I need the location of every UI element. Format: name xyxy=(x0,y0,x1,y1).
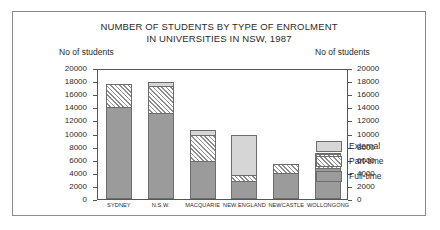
bar-segment-full-time xyxy=(106,107,132,199)
part-time-swatch xyxy=(316,156,342,167)
chart-title: NUMBER OF STUDENTS BY TYPE OF ENROLMENT … xyxy=(13,21,425,45)
bar-segment-full-time xyxy=(190,161,216,199)
y-tick-mark-right-14000 xyxy=(348,108,352,109)
y-tick-mark-right-2000 xyxy=(348,187,352,188)
bar-segment-external xyxy=(231,135,257,175)
bar-segment-external xyxy=(148,82,174,86)
bar-segment-part-time xyxy=(273,164,299,173)
legend-label-part-time: Part-time xyxy=(349,156,383,166)
chart-title-line-2: IN UNIVERSITIES IN NSW, 1987 xyxy=(13,33,425,45)
y-tick-label-left-0: 0 xyxy=(83,196,87,204)
legend-item-external: External xyxy=(316,139,383,153)
external-swatch xyxy=(316,141,342,152)
y-axis-label-left: No of students xyxy=(59,47,114,57)
bar-group-new-england: NEW ENGLAND xyxy=(231,68,257,199)
legend-label-external: External xyxy=(349,141,380,151)
bar-segment-full-time xyxy=(231,181,257,199)
stacked-bar xyxy=(190,68,216,199)
y-tick-label-right-20000: 20000 xyxy=(357,65,379,73)
y-tick-label-left-12000: 12000 xyxy=(65,117,87,125)
y-tick-label-left-20000: 20000 xyxy=(65,65,87,73)
bar-group-n-s-w: N.S.W. xyxy=(148,68,174,199)
bar-group-newcastle: NEWCASTLE xyxy=(273,68,299,199)
full-time-swatch xyxy=(316,171,342,182)
bar-segment-full-time xyxy=(273,173,299,199)
y-tick-label-left-16000: 16000 xyxy=(65,91,87,99)
stacked-bar xyxy=(273,68,299,199)
bar-segment-part-time xyxy=(231,175,257,180)
legend-item-part-time: Part-time xyxy=(316,154,383,168)
y-tick-label-right-14000: 14000 xyxy=(357,104,379,112)
bar-segment-part-time xyxy=(106,84,132,108)
y-tick-mark-right-18000 xyxy=(348,82,352,83)
y-axis-label-right: No of students xyxy=(315,47,370,57)
y-tick-label-left-18000: 18000 xyxy=(65,78,87,86)
y-tick-label-left-4000: 4000 xyxy=(69,170,87,178)
stacked-bar xyxy=(106,68,132,199)
y-tick-label-left-2000: 2000 xyxy=(69,183,87,191)
y-tick-label-left-6000: 6000 xyxy=(69,157,87,165)
chart-title-line-1: NUMBER OF STUDENTS BY TYPE OF ENROLMENT xyxy=(13,21,425,33)
bar-segment-external xyxy=(190,130,216,135)
chart-frame: NUMBER OF STUDENTS BY TYPE OF ENROLMENT … xyxy=(12,11,426,216)
plot-area: SYDNEYN.S.W.MACQUARIENEW ENGLANDNEWCASTL… xyxy=(97,69,348,200)
y-tick-label-left-10000: 10000 xyxy=(65,131,87,139)
bar-segment-full-time xyxy=(148,113,174,199)
bar-series-container: SYDNEYN.S.W.MACQUARIENEW ENGLANDNEWCASTL… xyxy=(98,69,347,199)
y-tick-mark-right-12000 xyxy=(348,121,352,122)
chart-legend: External Part-time Full-time xyxy=(316,139,383,184)
stacked-bar xyxy=(231,68,257,199)
bar-group-macquarie: MACQUARIE xyxy=(190,68,216,199)
legend-item-full-time: Full-time xyxy=(316,169,383,183)
y-tick-mark-right-16000 xyxy=(348,95,352,96)
bar-segment-part-time xyxy=(190,135,216,161)
bar-group-sydney: SYDNEY xyxy=(106,68,132,199)
y-tick-label-right-10000: 10000 xyxy=(357,131,379,139)
y-tick-label-right-18000: 18000 xyxy=(357,78,379,86)
y-tick-label-right-12000: 12000 xyxy=(357,117,379,125)
y-tick-label-right-16000: 16000 xyxy=(357,91,379,99)
y-tick-label-right-2000: 2000 xyxy=(357,183,375,191)
y-tick-mark-left-0 xyxy=(93,200,97,201)
legend-label-full-time: Full-time xyxy=(349,171,382,181)
y-tick-label-left-8000: 8000 xyxy=(69,144,87,152)
y-tick-mark-right-20000 xyxy=(348,69,352,70)
stacked-bar xyxy=(148,68,174,199)
x-axis-label-wollongong: WOLLONGONG xyxy=(302,202,354,208)
y-tick-mark-right-10000 xyxy=(348,135,352,136)
bar-segment-part-time xyxy=(148,86,174,112)
y-tick-mark-right-0 xyxy=(348,200,352,201)
y-tick-label-right-0: 0 xyxy=(357,196,361,204)
y-tick-label-left-14000: 14000 xyxy=(65,104,87,112)
